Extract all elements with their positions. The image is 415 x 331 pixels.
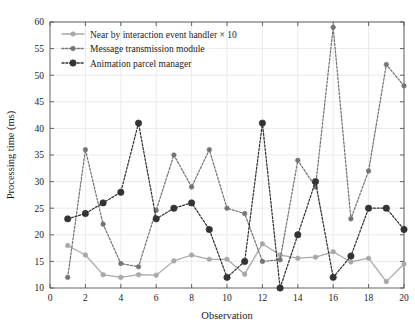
x-tick-label: 20 <box>399 293 409 303</box>
data-point-marker <box>206 226 212 232</box>
x-tick-label: 10 <box>222 293 232 303</box>
x-tick-label: 18 <box>364 293 374 303</box>
data-point-marker <box>242 272 247 277</box>
data-point-marker <box>154 273 159 278</box>
x-tick-label: 6 <box>154 293 159 303</box>
y-tick-label: 10 <box>35 283 45 293</box>
data-point-marker <box>242 211 247 216</box>
x-tick-label: 2 <box>83 293 88 303</box>
legend-marker-sample <box>70 60 76 66</box>
data-point-marker <box>277 285 283 291</box>
y-tick-label: 15 <box>35 257 45 267</box>
y-tick-label: 50 <box>35 71 45 81</box>
data-point-marker <box>224 274 230 280</box>
y-tick-label: 20 <box>35 230 45 240</box>
legend-label: Message transmission module <box>90 44 205 54</box>
data-point-marker <box>349 260 354 265</box>
y-tick-label: 55 <box>35 44 45 54</box>
data-point-marker <box>295 232 301 238</box>
data-point-marker <box>312 178 318 184</box>
data-point-marker <box>135 120 141 126</box>
y-axis-title: Processing time (ms) <box>5 110 17 199</box>
data-point-marker <box>65 243 70 248</box>
data-point-marker <box>207 147 212 152</box>
data-point-marker <box>225 257 230 262</box>
data-point-marker <box>331 250 336 255</box>
data-point-marker <box>119 275 124 280</box>
data-point-marker <box>296 256 301 261</box>
data-point-marker <box>278 258 283 263</box>
data-point-marker <box>259 120 265 126</box>
data-point-marker <box>189 185 194 190</box>
data-point-marker <box>366 256 371 261</box>
x-tick-label: 0 <box>48 293 53 303</box>
data-point-marker <box>365 205 371 211</box>
data-point-marker <box>189 253 194 258</box>
data-point-marker <box>83 147 88 152</box>
chart-figure: 101520253035404550556002468101214161820O… <box>0 0 415 331</box>
data-point-marker <box>366 169 371 174</box>
y-tick-label: 30 <box>35 177 45 187</box>
data-point-marker <box>225 206 230 211</box>
x-axis-title: Observation <box>201 310 253 321</box>
data-point-marker <box>384 279 389 284</box>
data-point-marker <box>65 216 71 222</box>
data-point-marker <box>65 275 70 280</box>
legend-label: Animation parcel manager <box>90 59 192 69</box>
legend-marker-sample <box>71 46 76 51</box>
data-point-marker <box>101 272 106 277</box>
data-point-marker <box>101 222 106 227</box>
data-point-marker <box>349 217 354 222</box>
legend-label: Near by interaction event handler × 10 <box>90 30 237 40</box>
legend: Near by interaction event handler × 10Me… <box>62 30 237 69</box>
data-point-marker <box>83 253 88 258</box>
x-tick-label: 8 <box>189 293 194 303</box>
data-point-marker <box>402 84 407 89</box>
data-point-marker <box>118 189 124 195</box>
data-point-marker <box>242 258 248 264</box>
data-point-marker <box>172 259 177 264</box>
data-point-marker <box>260 242 265 247</box>
x-tick-label: 16 <box>328 293 338 303</box>
data-point-marker <box>188 200 194 206</box>
x-tick-label: 12 <box>258 293 268 303</box>
data-point-marker <box>136 272 141 277</box>
y-tick-label: 25 <box>35 204 45 214</box>
data-point-marker <box>401 226 407 232</box>
data-point-marker <box>402 262 407 267</box>
data-point-marker <box>100 200 106 206</box>
y-tick-label: 40 <box>35 124 45 134</box>
data-point-marker <box>136 264 141 269</box>
data-point-marker <box>153 216 159 222</box>
data-point-marker <box>331 25 336 30</box>
series-1 <box>65 242 406 284</box>
data-point-marker <box>119 261 124 266</box>
line-chart: 101520253035404550556002468101214161820O… <box>0 0 415 331</box>
data-point-marker <box>330 274 336 280</box>
data-point-marker <box>260 259 265 264</box>
data-point-marker <box>383 205 389 211</box>
y-tick-label: 45 <box>35 97 45 107</box>
data-point-marker <box>296 158 301 163</box>
x-tick-label: 14 <box>293 293 303 303</box>
data-point-marker <box>207 257 212 262</box>
data-point-marker <box>171 205 177 211</box>
data-point-marker <box>172 153 177 158</box>
data-point-marker <box>82 210 88 216</box>
y-tick-label: 60 <box>35 17 45 27</box>
y-tick-label: 35 <box>35 150 45 160</box>
x-tick-label: 4 <box>118 293 123 303</box>
data-point-marker <box>384 62 389 67</box>
data-point-marker <box>313 255 318 260</box>
data-point-marker <box>348 253 354 259</box>
series-line <box>68 123 404 288</box>
legend-marker-sample <box>71 32 76 37</box>
